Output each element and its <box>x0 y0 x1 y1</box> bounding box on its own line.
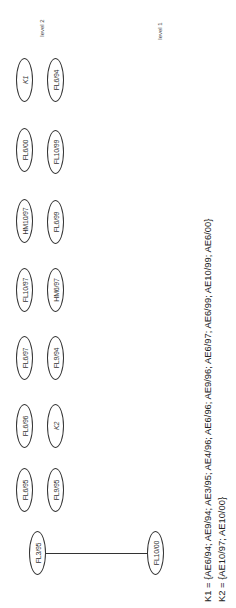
diagram-canvas: level 2 level 1 K1 FL6/00 HM10/97 FL10/9… <box>0 0 236 608</box>
legend-k2: K2 = {AE10/97; AE10/00} <box>216 497 227 602</box>
node-label: FL6/96 <box>21 416 28 437</box>
level-1-label: level 1 <box>157 22 163 39</box>
node-fl6-96: FL6/96 <box>16 404 33 448</box>
node-label: K2 <box>52 422 59 430</box>
node-label: FL10/00 <box>152 541 159 565</box>
node-fl3-95: FL3/95 <box>29 531 46 575</box>
legend-k1: K1 = {AE6/94; AE9/94; AE3/95; AE4/96; AE… <box>202 219 213 602</box>
level-2-label: level 2 <box>39 19 45 36</box>
node-fl9-95: FL9/95 <box>47 468 64 512</box>
node-label: FL6/94 <box>52 70 59 91</box>
node-k2: K2 <box>47 404 64 448</box>
node-label: FL6/00 <box>21 140 28 161</box>
node-label: FL3/95 <box>34 543 41 564</box>
node-label: FL9/94 <box>52 348 59 369</box>
node-fl10-97: FL10/97 <box>16 268 33 312</box>
node-label: FL9/95 <box>52 480 59 501</box>
node-k1: K1 <box>16 58 33 102</box>
node-fl6-99: FL6/99 <box>47 200 64 244</box>
node-label: FL6/99 <box>52 212 59 233</box>
node-label: HM10/97 <box>21 207 28 234</box>
node-hm6-97: HM6/97 <box>47 268 64 312</box>
node-label: HM6/97 <box>52 278 59 301</box>
node-label: FL6/97 <box>21 348 28 369</box>
node-label: FL6/95 <box>21 480 28 501</box>
node-hm10-97: HM10/97 <box>16 199 33 243</box>
node-fl9-94: FL9/94 <box>47 336 64 380</box>
edge-fl3-95-fl10-00 <box>46 553 148 554</box>
node-label: FL10/97 <box>21 278 28 302</box>
node-fl6-95: FL6/95 <box>16 468 33 512</box>
node-fl6-97: FL6/97 <box>16 336 33 380</box>
node-fl6-00: FL6/00 <box>16 128 33 172</box>
node-label: K1 <box>21 76 28 84</box>
node-fl10-00: FL10/00 <box>147 531 164 575</box>
node-fl10-99: FL10/99 <box>47 130 64 174</box>
node-fl6-94: FL6/94 <box>47 58 64 102</box>
node-label: FL10/99 <box>52 140 59 164</box>
